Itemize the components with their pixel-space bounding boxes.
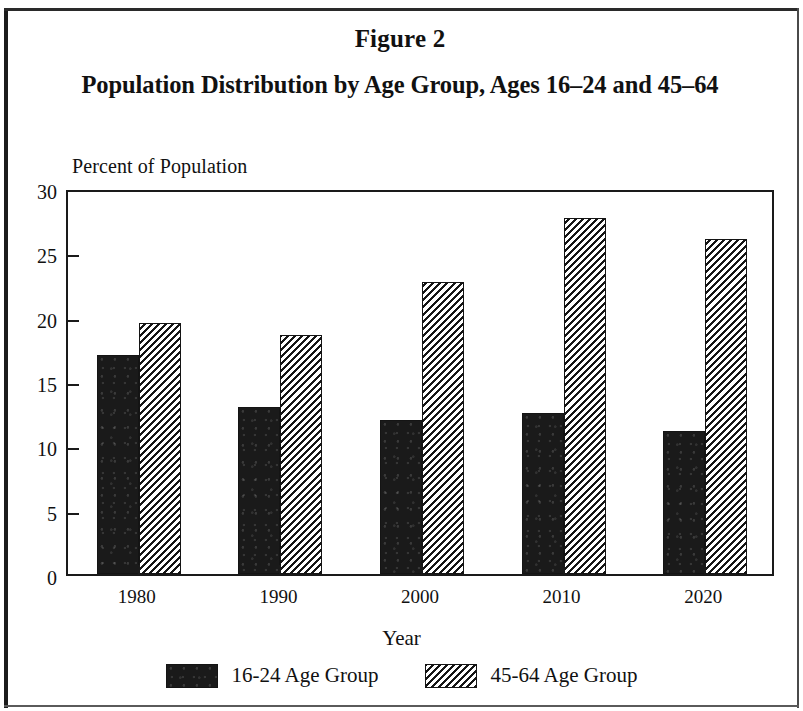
figure-container: Figure 2 Population Distribution by Age … <box>0 0 803 711</box>
bar <box>705 239 747 574</box>
x-tick-mark <box>138 565 140 574</box>
bar <box>522 413 564 574</box>
legend-entry[interactable]: 16-24 Age Group <box>166 663 379 688</box>
x-tick-mark <box>279 565 281 574</box>
x-tick-label: 2000 <box>401 586 439 608</box>
bar-group <box>238 192 322 574</box>
y-tick-label: 5 <box>47 502 57 525</box>
bar <box>280 335 322 574</box>
bar-group <box>380 192 464 574</box>
page-border-bottom <box>4 705 799 707</box>
bar-group <box>663 192 747 574</box>
x-tick-mark <box>563 565 565 574</box>
x-axis-caption: Year <box>0 626 803 651</box>
y-tick-label: 15 <box>37 374 57 397</box>
y-axis-caption: Percent of Population <box>72 155 247 178</box>
x-tick-label: 2020 <box>684 586 722 608</box>
bar-group <box>97 192 181 574</box>
chart-legend: 16-24 Age Group45-64 Age Group <box>0 663 803 688</box>
bars-layer <box>68 192 772 574</box>
page-border-right <box>797 8 799 708</box>
x-tick-mark <box>704 565 706 574</box>
bar <box>139 323 181 574</box>
figure-title-block: Figure 2 Population Distribution by Age … <box>40 22 760 101</box>
plot-area: 302520151050 <box>66 190 774 576</box>
x-tick-label: 2010 <box>543 586 581 608</box>
x-tick-mark <box>421 565 423 574</box>
bar <box>380 420 422 574</box>
bar <box>663 431 705 574</box>
y-tick-label: 10 <box>37 438 57 461</box>
figure-title: Population Distribution by Age Group, Ag… <box>40 68 760 101</box>
legend-label: 16-24 Age Group <box>232 663 379 688</box>
x-tick-label: 1980 <box>118 586 156 608</box>
figure-number: Figure 2 <box>40 22 760 56</box>
diagonal-hatch-swatch <box>425 664 477 688</box>
bar-group <box>522 192 606 574</box>
legend-entry[interactable]: 45-64 Age Group <box>425 663 638 688</box>
y-tick-label: 20 <box>37 309 57 332</box>
x-tick-label: 1990 <box>259 586 297 608</box>
y-tick-label: 0 <box>47 567 57 590</box>
solid-black-swatch <box>166 664 218 688</box>
bar <box>97 355 139 574</box>
y-tick-label: 30 <box>37 181 57 204</box>
page-border-top <box>4 8 799 11</box>
page-border-left <box>4 8 8 708</box>
y-tick-label: 25 <box>37 245 57 268</box>
bar <box>564 218 606 574</box>
legend-label: 45-64 Age Group <box>491 663 638 688</box>
bar <box>422 282 464 574</box>
bar <box>238 407 280 574</box>
